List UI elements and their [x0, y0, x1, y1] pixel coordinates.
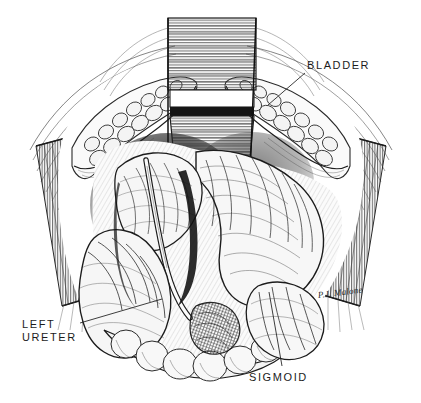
label-sigmoid: SIGMOID — [249, 371, 308, 384]
illustration-canvas: BLADDER LEFTURETER SIGMOID P.J. Malone — [0, 0, 421, 403]
label-bladder: BLADDER — [307, 59, 370, 72]
bowel-nodule — [190, 302, 240, 354]
label-left-ureter-line1: LEFT — [22, 318, 55, 330]
label-left-ureter-line2: URETER — [22, 331, 77, 343]
label-left-ureter: LEFTURETER — [22, 318, 77, 344]
